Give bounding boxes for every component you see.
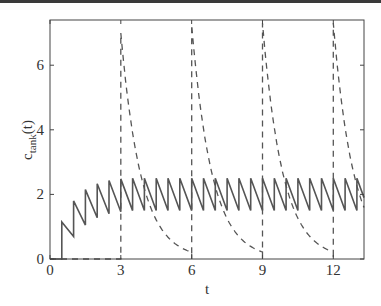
- x-tick-label: 0: [46, 262, 54, 278]
- y-axis-label-suffix: (t): [19, 120, 36, 134]
- y-tick-labels: 0246: [37, 57, 45, 267]
- axes-box: [50, 20, 364, 259]
- svg-text:ctank(t): ctank(t): [19, 120, 38, 160]
- x-axis-label: t: [205, 281, 210, 297]
- y-tick-label: 2: [37, 186, 45, 202]
- y-axis-label-sub: tank: [26, 134, 38, 153]
- y-tick-label: 0: [37, 251, 45, 267]
- dashed-series-line: [50, 23, 364, 259]
- y-tick-label: 6: [37, 57, 45, 73]
- solid-series-line: [50, 178, 364, 259]
- y-axis-label: ctank(t): [19, 120, 38, 160]
- axis-ticks: [50, 20, 364, 259]
- plot-lines: [50, 23, 364, 259]
- x-tick-label: 3: [117, 262, 125, 278]
- x-tick-label: 12: [326, 262, 341, 278]
- x-tick-label: 9: [259, 262, 267, 278]
- x-tick-labels: 036912: [46, 262, 341, 278]
- x-tick-label: 6: [188, 262, 196, 278]
- chart-canvas: 036912 0246 t ctank(t): [0, 0, 381, 306]
